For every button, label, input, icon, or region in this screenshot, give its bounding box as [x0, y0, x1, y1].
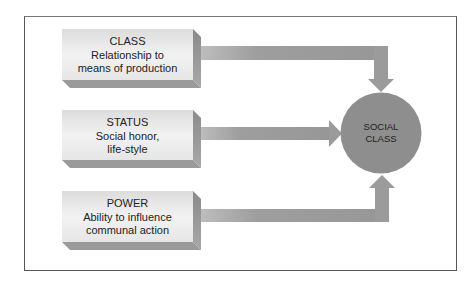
arrow-power-to-social-class [200, 175, 395, 222]
status-box-label: STATUS Social honor, life-style [62, 116, 193, 157]
arrow-status-to-social-class [200, 120, 342, 147]
social-class-label: SOCIAL CLASS [341, 121, 421, 145]
class-desc-line1: Relationship to [62, 49, 193, 63]
social-class-line1: SOCIAL [341, 121, 421, 133]
arrow-class-to-social-class [200, 46, 394, 92]
power-desc-line1: Ability to influence [62, 211, 193, 225]
status-title: STATUS [62, 116, 193, 130]
social-class-line2: CLASS [341, 133, 421, 145]
class-desc-line2: means of production [62, 62, 193, 76]
status-desc-line2: life-style [62, 143, 193, 157]
power-title: POWER [62, 197, 193, 211]
status-desc-line1: Social honor, [62, 130, 193, 144]
power-desc-line2: communal action [62, 224, 193, 238]
class-title: CLASS [62, 35, 193, 49]
power-box-label: POWER Ability to influence communal acti… [62, 197, 193, 238]
class-box-label: CLASS Relationship to means of productio… [62, 35, 193, 76]
